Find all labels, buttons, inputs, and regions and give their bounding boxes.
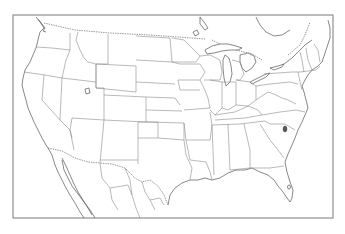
map-frame: [13, 15, 333, 218]
lake-okeechobee: [288, 185, 291, 189]
highlight-marker: [283, 126, 287, 132]
map-container: Contiguous United States with southern C…: [0, 0, 345, 234]
us-outline-map: [0, 0, 345, 234]
great-salt-lake: [85, 88, 90, 94]
